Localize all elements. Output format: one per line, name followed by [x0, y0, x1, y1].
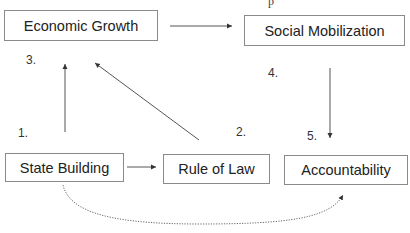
step-number-1: 1.	[18, 126, 28, 140]
arrow-rule-to-economic	[95, 63, 199, 140]
node-rule-of-law: Rule of Law	[163, 154, 270, 184]
step-number-4: 4.	[268, 66, 278, 80]
node-accountability: Accountability	[284, 155, 408, 185]
node-label: Accountability	[301, 162, 390, 178]
step-number-3: 3.	[26, 53, 36, 67]
node-label: Rule of Law	[178, 161, 255, 177]
node-label: Economic Growth	[24, 18, 138, 34]
step-number-2: 2.	[236, 125, 246, 139]
node-state-building: State Building	[5, 153, 124, 182]
dotted-arrow-state-to-accountability	[63, 185, 343, 224]
step-number-5: 5.	[307, 129, 317, 143]
node-economic-growth: Economic Growth	[4, 10, 158, 41]
node-social-mobilization: Social Mobilization	[244, 15, 405, 46]
node-label: State Building	[20, 160, 109, 176]
node-label: Social Mobilization	[264, 23, 384, 39]
